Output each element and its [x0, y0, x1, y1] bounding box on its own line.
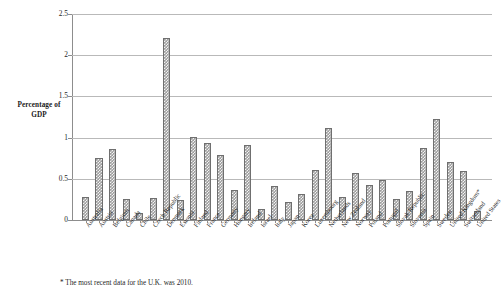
bar: [312, 170, 319, 220]
y-tick-mark: [68, 14, 72, 15]
y-tick-mark: [68, 179, 72, 180]
y-tick-label: 1: [44, 134, 68, 142]
gridline: [72, 14, 492, 15]
y-axis-tick-labels: 00.511.522.5: [42, 14, 68, 220]
gridline: [72, 55, 492, 56]
chart-figure: Percentage of GDP 00.511.522.5 Australia…: [0, 0, 501, 297]
bar: [217, 155, 224, 220]
plot-area: [72, 14, 492, 220]
bar: [82, 197, 89, 220]
gridline: [72, 138, 492, 139]
y-tick-mark: [68, 220, 72, 221]
y-tick-mark: [68, 55, 72, 56]
bar: [190, 137, 197, 220]
y-tick-label: 2.5: [44, 10, 68, 18]
y-tick-label: 0: [44, 216, 68, 224]
gridline: [72, 96, 492, 97]
y-tick-mark: [68, 96, 72, 97]
y-axis-line: [72, 14, 73, 220]
y-tick-label: 0.5: [44, 175, 68, 183]
y-tick-label: 2: [44, 51, 68, 59]
bar: [271, 186, 278, 220]
y-tick-mark: [68, 138, 72, 139]
gridline: [72, 179, 492, 180]
bar: [433, 119, 440, 220]
y-tick-label: 1.5: [44, 92, 68, 100]
footnote: * The most recent data for the U.K. was …: [60, 279, 193, 288]
x-axis-category-labels: AustraliaAustriaBelgiumCanadaChileCzech …: [72, 224, 501, 280]
bar: [163, 38, 170, 220]
